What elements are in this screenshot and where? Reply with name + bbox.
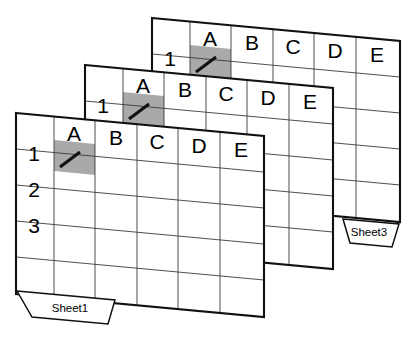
sheet1-row-header-3: 3 [28,214,40,237]
sheet3-col-header-b: B [245,31,259,54]
sheet3-col-header-e: E [370,43,384,66]
sheet2-col-header-c: C [218,82,233,105]
sheet1-col-header-b: B [109,126,123,149]
sheet1-row-header-2: 2 [28,178,40,201]
sheet3-col-header-a: A [203,27,217,50]
sheet1-row-header-1: 1 [28,142,40,165]
sheet3-tab-label: Sheet3 [351,226,387,238]
sheet1-col-header-a: A [67,122,81,145]
sheet2-col-header-b: B [178,78,192,101]
sheet1-col-header-d: D [191,134,206,157]
spreadsheet-stack-figure: A B C D E 1 Sheet3 [0,0,413,357]
sheet3-col-header-d: D [327,39,342,62]
sheet1-body [16,113,264,317]
sheet3-row-header-1: 1 [164,47,176,70]
sheet3-tab[interactable]: Sheet3 [343,219,399,247]
sheet1-tab-label: Sheet1 [52,302,88,314]
figure-canvas: A B C D E 1 Sheet3 [0,0,413,357]
sheet3-col-header-c: C [285,35,300,58]
sheet-sheet1[interactable]: A B C D E 1 2 3 Sheet1 [16,113,264,324]
sheet2-col-header-a: A [136,74,150,97]
sheet2-col-header-d: D [260,86,275,109]
sheet2-col-header-e: E [303,90,317,113]
sheet1-col-header-c: C [149,130,164,153]
sheet1-col-header-e: E [234,138,248,161]
sheet2-row-header-1: 1 [97,94,109,117]
